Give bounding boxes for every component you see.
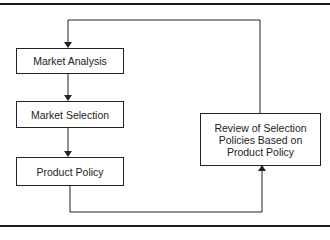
node-label: Review of Selection Policies Based on Pr… — [213, 122, 308, 158]
node-market-analysis: Market Analysis — [16, 48, 124, 74]
node-label: Product Policy — [36, 166, 103, 178]
node-label: Market Selection — [31, 109, 109, 121]
node-product-policy: Product Policy — [16, 157, 124, 186]
node-label: Market Analysis — [33, 55, 107, 67]
node-market-selection: Market Selection — [16, 101, 124, 128]
node-review: Review of Selection Policies Based on Pr… — [200, 113, 321, 166]
